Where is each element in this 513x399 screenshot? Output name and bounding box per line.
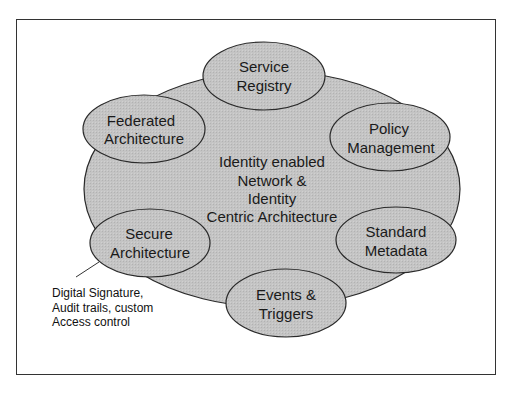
node-events-triggers: Events & Triggers (226, 269, 346, 337)
annotation-line-1: Digital Signature, (52, 286, 143, 300)
node-label-line-2: Architecture (110, 244, 190, 261)
node-service-registry: Service Registry (203, 42, 325, 110)
identity-architecture-diagram: Identity enabled Network & Identity Cent… (0, 0, 513, 399)
node-label-line-1: Federated (107, 112, 175, 129)
node-label-line-1: Events & (256, 286, 316, 303)
node-label-line-2: Triggers (259, 305, 313, 322)
annotation-line-2: Audit trails, custom (52, 301, 153, 315)
center-label-line-4: Centric Architecture (207, 208, 338, 225)
node-policy-management: Policy Management (330, 103, 450, 171)
node-federated-architecture: Federated Architecture (83, 95, 205, 163)
node-label-line-2: Management (347, 139, 435, 156)
node-label-line-2: Metadata (365, 242, 428, 259)
node-label-line-1: Secure (125, 225, 173, 242)
node-label-line-1: Policy (369, 120, 410, 137)
node-ellipse (83, 95, 205, 163)
node-ellipse (336, 207, 456, 273)
node-label-line-1: Standard (366, 223, 427, 240)
center-label-line-2: Network & (237, 172, 306, 189)
node-label-line-1: Service (239, 58, 289, 75)
annotation-leader-line (76, 262, 99, 277)
center-label-line-3: Identity (248, 190, 297, 207)
node-ellipse (330, 103, 450, 171)
annotation-line-3: Access control (52, 315, 130, 329)
node-ellipse (226, 269, 346, 337)
node-ellipse (90, 209, 210, 277)
node-secure-architecture: Secure Architecture (90, 209, 210, 277)
center-label-line-1: Identity enabled (219, 153, 325, 170)
node-label-line-2: Architecture (104, 130, 184, 147)
node-ellipse (203, 42, 325, 110)
node-label-line-2: Registry (236, 77, 292, 94)
node-standard-metadata: Standard Metadata (336, 207, 456, 273)
